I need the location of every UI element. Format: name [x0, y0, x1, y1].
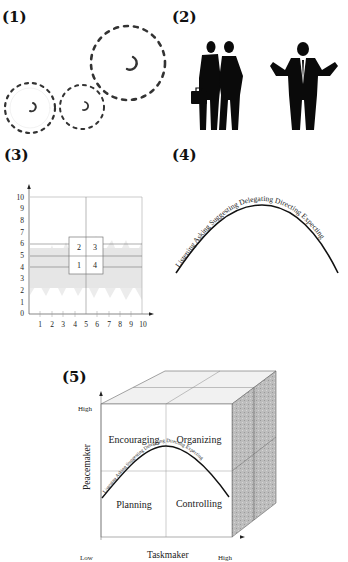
- svg-text:1: 1: [20, 298, 24, 307]
- svg-text:6: 6: [95, 320, 99, 329]
- two-businessmen-talking-icon: [191, 41, 243, 130]
- grid-chart: 2 3 1 4 0 1 2 3 4 5 6 7 8 9 10 1: [17, 184, 155, 329]
- svg-text:4: 4: [73, 320, 77, 329]
- quadrant-controlling: Controlling: [176, 498, 222, 509]
- stage-curve: Listening Asking Suggesting Delegating D…: [173, 194, 338, 273]
- x-axis-low: Low: [80, 554, 94, 562]
- svg-text:9: 9: [129, 320, 133, 329]
- cell-4: 4: [93, 261, 97, 270]
- svg-text:5: 5: [20, 251, 24, 260]
- svg-text:2: 2: [50, 320, 54, 329]
- svg-text:1: 1: [38, 320, 42, 329]
- svg-text:7: 7: [107, 320, 111, 329]
- svg-text:8: 8: [118, 320, 122, 329]
- svg-text:6: 6: [20, 239, 24, 248]
- svg-text:2: 2: [20, 286, 24, 295]
- quadrant-organizing: Organizing: [177, 434, 222, 445]
- svg-text:3: 3: [61, 320, 65, 329]
- x-axis-high: High: [218, 554, 233, 562]
- svg-text:7: 7: [20, 228, 24, 237]
- y-axis-high: High: [78, 405, 93, 413]
- cell-3: 3: [93, 243, 97, 252]
- svg-text:10: 10: [17, 193, 25, 202]
- curve-labels: Listening Asking Suggesting Delegating D…: [173, 194, 326, 269]
- y-axis-label: Peacemaker: [82, 443, 92, 490]
- svg-text:9: 9: [20, 204, 24, 213]
- cell-2: 2: [77, 243, 81, 252]
- svg-text:3: 3: [20, 274, 24, 283]
- svg-text:4: 4: [20, 263, 24, 272]
- quadrant-planning: Planning: [116, 499, 152, 510]
- svg-text:8: 8: [20, 216, 24, 225]
- cube-diagram: Encouraging Organizing Planning Controll…: [78, 371, 276, 562]
- svg-text:5: 5: [84, 320, 88, 329]
- y-tick-labels: 0 1 2 3 4 5 6 7 8 9 10: [17, 193, 25, 318]
- shrugging-businessman-icon: [270, 42, 338, 130]
- svg-text:0: 0: [20, 309, 24, 318]
- svg-text:10: 10: [139, 320, 147, 329]
- cell-1: 1: [77, 261, 81, 270]
- x-axis-label: Taskmaker: [147, 550, 189, 560]
- gears-icon: [5, 26, 165, 133]
